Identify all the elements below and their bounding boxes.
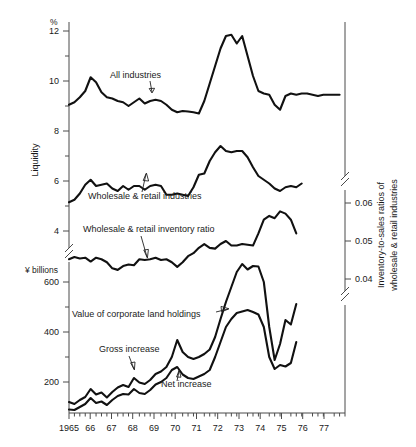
ytick-6: 6: [54, 176, 59, 186]
xtick-74: 74: [255, 423, 265, 433]
annotation-label-gross-increase: Gross increase: [99, 344, 160, 354]
left-axis-title: Liquidity: [30, 143, 40, 177]
xtick-75: 75: [276, 423, 286, 433]
right-axis-title-line1: Inventory-to-sales ratios of: [376, 181, 386, 288]
annotation-label-land-holdings: Value of corporate land holdings: [72, 309, 201, 319]
ytick-400: 400: [44, 327, 59, 337]
xtick-73: 73: [234, 423, 244, 433]
xtick-68: 68: [128, 423, 138, 433]
right-axis-title-line2: wholesale & retail industries: [389, 179, 399, 292]
annotation-label-inventory-ratio: Wholesale & retail inventory ratio: [83, 224, 215, 234]
annotation-net-increase: Net increase: [161, 370, 212, 389]
left-axis: [63, 22, 73, 413]
ytick-4: 4: [54, 226, 59, 236]
annotation-label-wholesale-retail-industries: Wholesale & retail industries: [88, 191, 202, 201]
ytick-right-004: 0.04: [355, 274, 373, 284]
xtick-67: 67: [106, 423, 116, 433]
xtick-76: 76: [298, 423, 308, 433]
right-axis: [341, 22, 351, 413]
ytick-12: 12: [49, 26, 59, 36]
annotation-land-holdings: Value of corporate land holdings: [72, 306, 229, 319]
chart-figure: % 12 10 8 6 4 ¥ billions 600 400 200 0.0…: [0, 0, 416, 447]
x-minor-ticks: [74, 413, 345, 417]
xtick-72: 72: [213, 423, 223, 433]
annotation-label-net-increase: Net increase: [161, 379, 212, 389]
xtick-71: 71: [191, 423, 201, 433]
curve-wholesale-retail-inventory-ratio: [69, 211, 296, 270]
xtick-77: 77: [319, 423, 329, 433]
xtick-66: 66: [85, 423, 95, 433]
left-unit-yen: ¥ billions: [24, 265, 58, 275]
annotation-gross-increase: Gross increase: [99, 344, 160, 370]
ytick-right-005: 0.05: [355, 236, 373, 246]
ytick-8: 8: [54, 126, 59, 136]
annotation-all-industries: All industries: [110, 70, 162, 93]
xtick-1965: 1965: [59, 423, 79, 433]
ytick-600: 600: [44, 277, 59, 287]
annotation-label-all-industries: All industries: [110, 70, 162, 80]
xtick-69: 69: [149, 423, 159, 433]
chart-svg: % 12 10 8 6 4 ¥ billions 600 400 200 0.0…: [0, 0, 416, 447]
ytick-200: 200: [44, 377, 59, 387]
ytick-right-006: 0.06: [355, 198, 373, 208]
ytick-10: 10: [49, 76, 59, 86]
annotation-wholesale-retail-industries: Wholesale & retail industries: [88, 173, 202, 201]
bottom-axis: [69, 413, 345, 419]
xtick-70: 70: [170, 423, 180, 433]
